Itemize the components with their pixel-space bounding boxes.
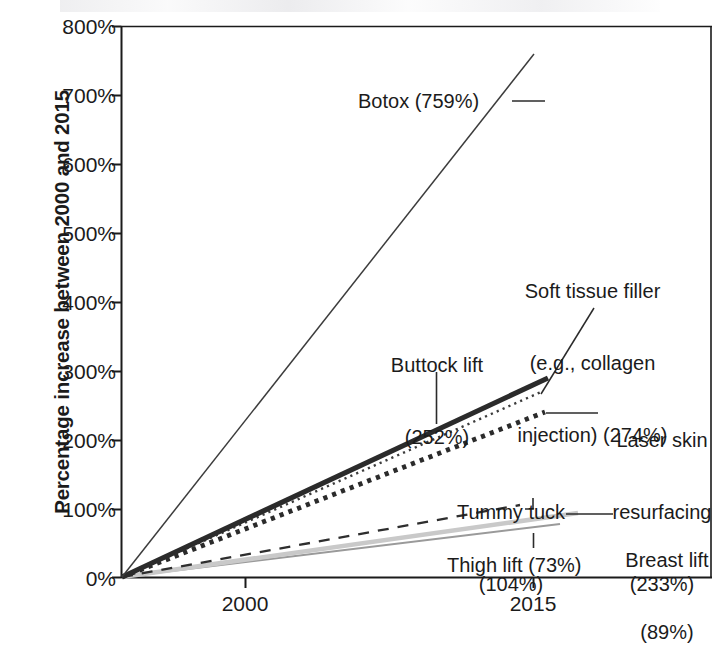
annotation-soft-tissue-filler-line2: (e.g., collagen bbox=[500, 351, 685, 375]
annotation-tummy-tuck: Tummy tuck (104%) bbox=[441, 452, 581, 644]
annotation-soft-tissue-filler-line1: Soft tissue filler bbox=[500, 279, 685, 303]
annotation-breast-lift-line1: Breast lift bbox=[613, 548, 721, 572]
annotation-tummy-tuck-line1: Tummy tuck bbox=[441, 500, 581, 524]
annotation-thigh-lift: Thigh lift (73%) bbox=[447, 553, 582, 577]
annotation-botox: Botox (759%) bbox=[358, 89, 479, 113]
y-tick-marks bbox=[112, 27, 122, 578]
annotation-breast-lift-line2: (89%) bbox=[613, 620, 721, 644]
annotation-breast-lift: Breast lift (89%) bbox=[613, 500, 721, 647]
annotation-buttock-lift-line1: Buttock lift bbox=[366, 353, 508, 377]
annotation-laser-skin-resurfacing-line1: Laser skin bbox=[604, 428, 720, 452]
annotation-buttock-lift-line2: (252%) bbox=[366, 425, 508, 449]
